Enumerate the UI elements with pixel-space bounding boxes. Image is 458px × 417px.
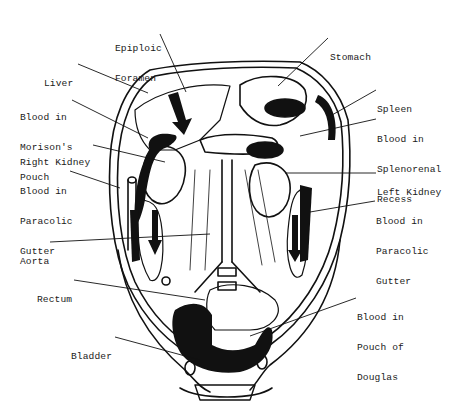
blood-left-paracolic-arrow <box>288 215 302 262</box>
left-kidney-shape <box>249 163 290 217</box>
leader-aorta <box>50 234 210 242</box>
label-stomach: Stomach <box>330 33 371 83</box>
abdominal-diagram: Epiploic Foramen Stomach Liver Blood in … <box>0 0 458 417</box>
leader-rectum <box>74 280 205 300</box>
label-epiploic-foramen: Epiploic Foramen <box>115 24 162 104</box>
blood-left-paracolic <box>300 185 312 262</box>
leader-spleen <box>332 90 376 115</box>
aorta-line <box>222 160 232 262</box>
label-blood-pouch-of-douglas: Blood in Pouch of Douglas <box>357 293 404 403</box>
epiploic-foramen-arrow <box>168 92 192 135</box>
rectum-shape <box>207 285 278 330</box>
label-blood-paracolic-gutter-left: Blood in Paracolic Gutter <box>376 197 429 307</box>
label-rectum: Rectum <box>37 275 72 325</box>
leader-morison <box>72 100 148 138</box>
stomach-inner <box>265 99 305 117</box>
label-bladder: Bladder <box>71 332 112 382</box>
leader-pouch-douglas <box>250 298 356 336</box>
leader-epiploic <box>160 34 186 92</box>
leader-splenorenal <box>300 119 376 136</box>
left-kidney-pelvis <box>247 142 283 158</box>
leader-left-paracolic <box>310 201 375 212</box>
